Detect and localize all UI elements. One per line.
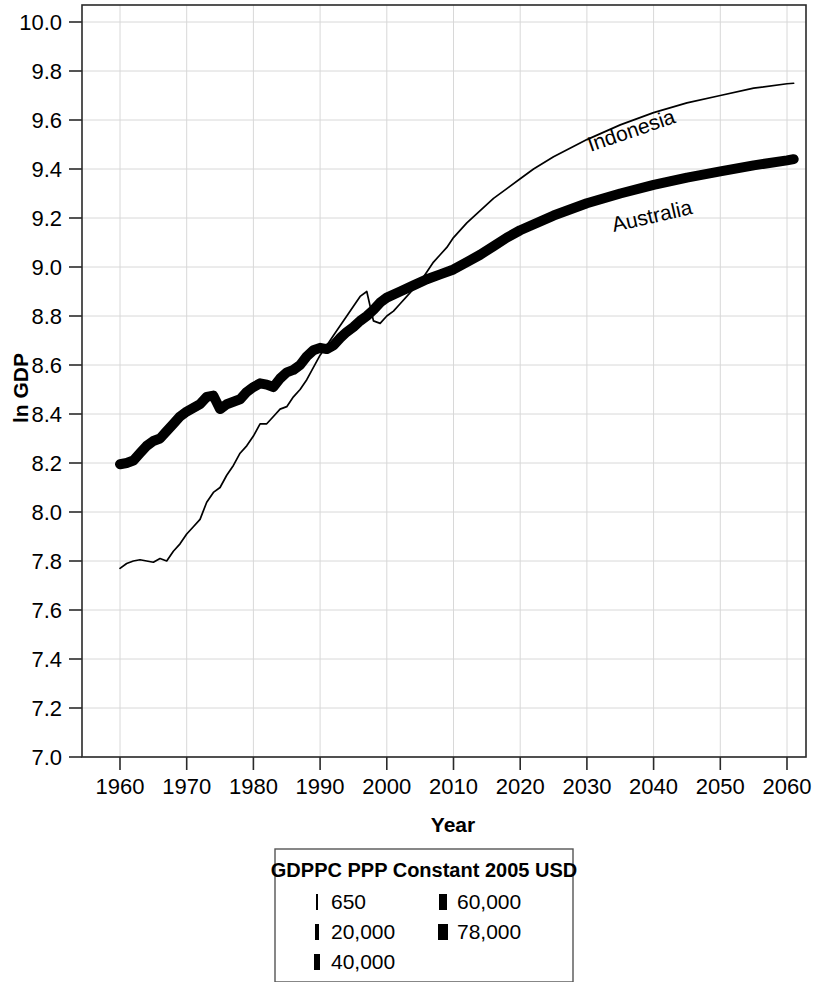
x-tick-label: 2030 (562, 774, 611, 799)
x-tick-label: 2040 (629, 774, 678, 799)
x-tick-label: 1970 (162, 774, 211, 799)
legend-marker (316, 894, 318, 910)
chart-background (0, 0, 820, 982)
y-tick-label: 9.8 (31, 59, 62, 84)
x-tick-label: 2010 (429, 774, 478, 799)
legend-label: 78,000 (457, 920, 521, 943)
x-tick-label: 1980 (229, 774, 278, 799)
y-tick-label: 7.0 (31, 745, 62, 770)
gdp-projection-chart: 1960197019801990200020102020203020402050… (0, 0, 820, 982)
y-tick-label: 8.8 (31, 304, 62, 329)
y-tick-label: 8.6 (31, 353, 62, 378)
y-tick-label: 8.0 (31, 500, 62, 525)
legend-marker (314, 954, 320, 970)
x-tick-label: 2060 (763, 774, 812, 799)
y-tick-label: 8.2 (31, 451, 62, 476)
y-tick-label: 8.4 (31, 402, 62, 427)
legend-title: GDPPC PPP Constant 2005 USD (271, 859, 577, 881)
y-tick-label: 7.2 (31, 696, 62, 721)
x-tick-label: 2000 (362, 774, 411, 799)
x-tick-label: 2020 (496, 774, 545, 799)
x-tick-label: 1990 (296, 774, 345, 799)
y-tick-label: 9.2 (31, 206, 62, 231)
x-tick-label: 1960 (96, 774, 145, 799)
y-axis-title: ln GDP (9, 353, 32, 423)
legend-label: 650 (331, 890, 366, 913)
x-tick-label: 2050 (696, 774, 745, 799)
legend-marker (315, 924, 319, 940)
y-tick-label: 7.4 (31, 647, 62, 672)
y-tick-label: 9.6 (31, 108, 62, 133)
y-tick-label: 10.0 (19, 10, 62, 35)
y-tick-label: 7.6 (31, 598, 62, 623)
legend-label: 20,000 (331, 920, 395, 943)
legend-label: 60,000 (457, 890, 521, 913)
legend-label: 40,000 (331, 950, 395, 973)
chart-legend: GDPPC PPP Constant 2005 USD65020,00040,0… (271, 849, 577, 982)
y-tick-label: 9.4 (31, 157, 62, 182)
legend-marker (439, 894, 447, 910)
y-tick-label: 9.0 (31, 255, 62, 280)
legend-marker (438, 924, 448, 940)
x-axis-title: Year (431, 813, 475, 836)
y-tick-label: 7.8 (31, 549, 62, 574)
